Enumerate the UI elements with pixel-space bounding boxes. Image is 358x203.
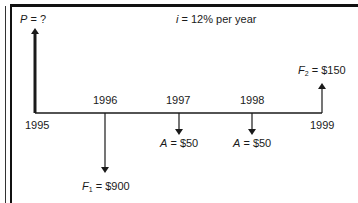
interest-var: i xyxy=(176,13,178,25)
interest-rate-label: i = 12% per year xyxy=(176,14,256,25)
flow-sub: 1 xyxy=(89,186,93,193)
present-value-label: P = ? xyxy=(20,14,46,25)
present-value: = ? xyxy=(30,13,46,25)
flow-value: = $50 xyxy=(243,137,271,149)
flow-value: = $900 xyxy=(96,180,130,192)
flow-label-1996: F1 = $900 xyxy=(82,181,130,193)
flow-var: A xyxy=(233,137,240,149)
flow-label-1999: F2 = $150 xyxy=(298,65,346,77)
present-var: P xyxy=(20,13,27,25)
year-label-1995: 1995 xyxy=(25,120,49,131)
flow-label-1997: A = $50 xyxy=(160,138,198,149)
flow-var: A xyxy=(160,137,167,149)
flow-label-1998: A = $50 xyxy=(233,138,271,149)
year-label-1999: 1999 xyxy=(310,120,334,131)
flow-var: F xyxy=(298,64,305,76)
interest-value: = 12% per year xyxy=(182,13,257,25)
flow-sub: 2 xyxy=(305,70,309,77)
flow-value: = $50 xyxy=(170,137,198,149)
year-label-1996: 1996 xyxy=(93,95,117,106)
flow-var: F xyxy=(82,180,89,192)
year-label-1997: 1997 xyxy=(166,95,190,106)
year-label-1998: 1998 xyxy=(240,95,264,106)
flow-value: = $150 xyxy=(312,64,346,76)
